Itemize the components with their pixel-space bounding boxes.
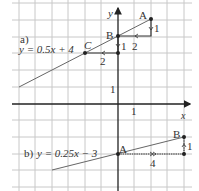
run-bc-label: 2: [100, 56, 106, 67]
grid-lines: [12, 0, 192, 191]
linear-functions-diagram: y x 1 1 a) y = 0.5x + 4 A B C 1 2 1 2 b)…: [0, 0, 199, 191]
point-a-label: A: [139, 10, 147, 21]
y-unit-label: 1: [110, 84, 116, 95]
rise-bc-label: 1: [121, 41, 127, 52]
part-b-label: b): [24, 148, 33, 159]
rise-b-label: 1: [187, 141, 193, 152]
point-b-b-label: B: [173, 129, 180, 140]
point-b-a-label: A: [119, 144, 127, 155]
x-axis-label: x: [181, 110, 185, 121]
part-b-equation: y = 0.25x − 3: [37, 148, 97, 159]
point-c-label: C: [84, 40, 91, 51]
run-ab-label: 2: [132, 41, 138, 52]
rise-ab-label: 1: [154, 23, 160, 34]
x-unit-label: 1: [131, 106, 137, 117]
run-b-label: 4: [150, 158, 156, 169]
coordinate-grid: [0, 0, 199, 191]
y-axis-label: y: [108, 8, 113, 19]
part-a-equation: y = 0.5x + 4: [19, 44, 74, 55]
point-b-label: B: [106, 30, 113, 41]
